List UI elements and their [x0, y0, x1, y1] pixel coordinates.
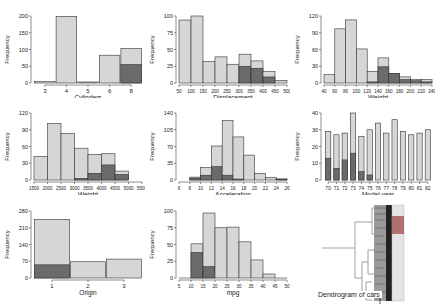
- bar: [263, 274, 275, 278]
- svg-text:6: 6: [178, 186, 181, 191]
- chart-cylinders: 050100150200Frequency34568Cylinders: [0, 0, 145, 102]
- svg-text:72: 72: [342, 185, 348, 191]
- highlight-bar: [367, 82, 378, 83]
- bar: [222, 121, 233, 180]
- dendrogram-title: Dendrogram of cars: [316, 291, 382, 298]
- svg-text:50: 50: [22, 63, 28, 69]
- svg-text:50: 50: [284, 284, 290, 289]
- highlight-bar: [421, 82, 432, 83]
- highlight-bar: [367, 175, 372, 180]
- svg-text:210: 210: [19, 225, 28, 231]
- svg-text:200: 200: [19, 13, 28, 19]
- y-axis-label: Frequency: [4, 35, 10, 63]
- svg-text:220: 220: [417, 89, 425, 94]
- highlight-bar: [389, 74, 400, 83]
- bar: [417, 133, 422, 180]
- svg-text:15: 15: [200, 284, 206, 289]
- svg-text:0: 0: [25, 80, 28, 86]
- svg-text:10: 10: [198, 186, 204, 191]
- svg-text:71: 71: [334, 185, 340, 191]
- svg-text:70: 70: [167, 144, 173, 150]
- svg-text:10: 10: [188, 284, 194, 289]
- svg-text:30: 30: [312, 127, 318, 133]
- highlight-bar: [211, 167, 222, 180]
- svg-text:0: 0: [25, 177, 28, 183]
- bar: [367, 130, 372, 180]
- svg-text:5500: 5500: [137, 186, 145, 191]
- bar: [78, 82, 99, 83]
- svg-text:79: 79: [400, 185, 406, 191]
- chart-origin: 070140210280Frequency123Origin: [0, 195, 145, 305]
- svg-text:70: 70: [22, 258, 28, 264]
- bar: [425, 130, 430, 180]
- svg-text:1: 1: [50, 283, 54, 289]
- highlight-bar: [203, 267, 215, 278]
- svg-text:120: 120: [309, 13, 318, 19]
- highlight-bar: [378, 67, 389, 83]
- chart-model_year: 010203040Frequency7071727374757677787980…: [290, 97, 435, 199]
- svg-text:70: 70: [325, 185, 331, 191]
- svg-text:50: 50: [176, 89, 182, 94]
- bar: [392, 120, 397, 180]
- svg-text:500: 500: [283, 89, 290, 94]
- highlight-bar: [334, 168, 339, 180]
- svg-text:150: 150: [199, 89, 207, 94]
- svg-text:400: 400: [259, 89, 267, 94]
- bar: [56, 16, 77, 83]
- svg-text:80: 80: [343, 89, 349, 94]
- bar: [227, 227, 239, 278]
- svg-text:140: 140: [164, 110, 173, 116]
- highlight-bar: [350, 153, 355, 180]
- svg-text:0: 0: [170, 80, 173, 86]
- svg-text:280: 280: [19, 208, 28, 214]
- svg-text:30: 30: [22, 160, 28, 166]
- highlight-bar: [251, 68, 263, 83]
- highlight-bar: [239, 66, 251, 83]
- y-axis-label: Frequency: [4, 132, 10, 160]
- svg-text:40: 40: [321, 89, 327, 94]
- svg-text:8: 8: [189, 186, 192, 191]
- svg-text:6: 6: [108, 88, 112, 94]
- chart-acceleration: 03570105140Frequency68101214161820222426…: [145, 97, 290, 199]
- bar: [251, 260, 263, 278]
- svg-text:3: 3: [122, 283, 126, 289]
- x-axis-label: Origin: [79, 289, 97, 297]
- svg-text:35: 35: [167, 160, 173, 166]
- svg-text:40: 40: [260, 284, 266, 289]
- bar: [191, 16, 203, 83]
- highlight-bar: [326, 158, 331, 180]
- svg-text:100: 100: [19, 47, 28, 53]
- bar: [384, 133, 389, 180]
- bar: [356, 49, 367, 83]
- svg-text:90: 90: [312, 30, 318, 36]
- bar: [367, 71, 378, 83]
- svg-text:50: 50: [167, 242, 173, 248]
- highlight-bar: [75, 178, 89, 180]
- chart-horsepower: 0306090120Frequency406080100120140160180…: [290, 0, 435, 102]
- y-axis-label: Frequency: [149, 35, 155, 63]
- highlight-bar: [233, 179, 244, 180]
- highlight-bar: [400, 80, 411, 83]
- x-axis-label: Model year: [362, 191, 395, 195]
- svg-text:20: 20: [252, 186, 258, 191]
- svg-text:20: 20: [312, 144, 318, 150]
- bar: [275, 80, 287, 83]
- svg-text:4: 4: [65, 88, 69, 94]
- y-axis-label: Frequency: [149, 132, 155, 160]
- highlight-bar: [88, 173, 102, 180]
- svg-text:0: 0: [25, 275, 28, 281]
- svg-text:24: 24: [274, 186, 280, 191]
- highlight-bar: [410, 81, 421, 83]
- highlight-bar: [342, 160, 347, 180]
- svg-text:60: 60: [22, 144, 28, 150]
- highlight-bar: [191, 253, 203, 278]
- svg-text:22: 22: [263, 186, 269, 191]
- svg-text:25: 25: [167, 258, 173, 264]
- bar: [203, 62, 215, 83]
- bar: [227, 64, 239, 83]
- svg-text:40: 40: [312, 110, 318, 116]
- svg-text:140: 140: [19, 242, 28, 248]
- bar: [215, 57, 227, 83]
- svg-text:2500: 2500: [56, 186, 67, 191]
- svg-text:180: 180: [396, 89, 404, 94]
